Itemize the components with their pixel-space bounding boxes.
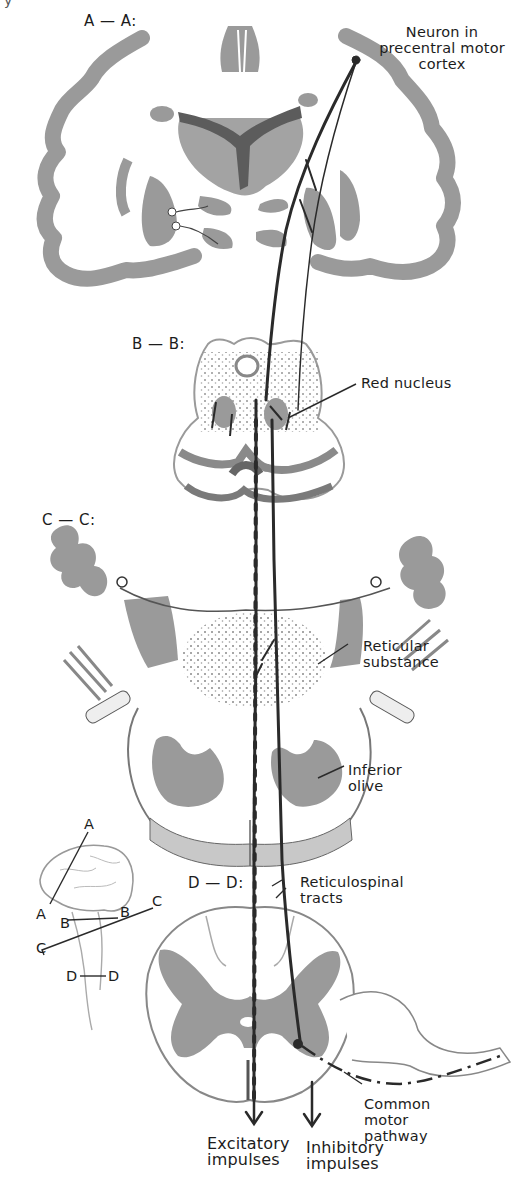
section-label-b: B — B: (132, 336, 185, 352)
inset-label-d-right: D (108, 968, 119, 984)
section-d-spinal-cord (146, 907, 510, 1102)
inset-label-b-right: B (120, 904, 130, 920)
label-red-nucleus: Red nucleus (361, 375, 451, 391)
neural-pathway-diagram: A — A: B — B: C — C: D — D: Neuron in pr… (0, 0, 518, 1182)
orientation-inset (40, 832, 153, 1030)
section-b-midbrain (174, 338, 344, 499)
label-neuron-precentral-cortex: Neuron in precentral motor cortex (366, 24, 518, 72)
inset-label-a-bottom: A (36, 906, 46, 922)
label-reticulospinal-tracts: Reticulospinal tracts (300, 874, 404, 906)
anatomical-illustration (0, 0, 518, 1182)
label-excitatory-impulses: Excitatory impulses (207, 1136, 290, 1168)
inset-label-a-top: A (84, 816, 94, 832)
label-inferior-olive: Inferior olive (348, 762, 402, 794)
section-label-a: A — A: (84, 13, 137, 29)
label-common-motor-pathway: Common motor pathway (364, 1096, 431, 1144)
inset-label-c-left: C (36, 940, 46, 956)
inset-label-d-left: D (66, 968, 77, 984)
label-inhibitory-impulses: Inhibitory impulses (306, 1140, 384, 1172)
inset-label-b-left: B (60, 915, 70, 931)
corner-glyph: y (4, 0, 13, 8)
inset-label-c-right: C (152, 893, 162, 909)
section-label-d: D — D: (188, 875, 244, 891)
label-reticular-substance: Reticular substance (363, 638, 439, 670)
section-label-c: C — C: (42, 512, 96, 528)
section-c-medulla (50, 525, 448, 866)
